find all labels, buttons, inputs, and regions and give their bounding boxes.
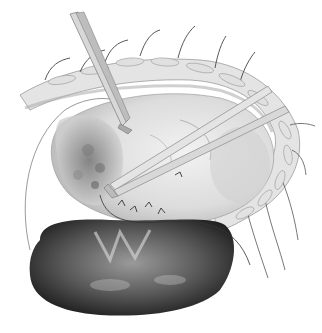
surgical-illustration [0,0,322,333]
organ-bottom [30,219,234,315]
illustration-canvas [0,0,322,333]
